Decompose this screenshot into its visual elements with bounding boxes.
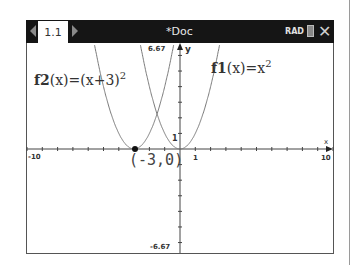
f2-curve[interactable] [95, 45, 174, 149]
graph-canvas[interactable] [0, 0, 355, 265]
f1-expr: =x [246, 60, 266, 76]
f1-name: f1 [211, 60, 227, 76]
f2-label[interactable]: f2(x)=(x+3)2 [34, 70, 126, 88]
y-one-label: 1 [172, 134, 178, 143]
xmin-label: -10 [28, 153, 41, 161]
f1-arg: (x) [227, 60, 246, 76]
x-axis-arrow-icon [326, 146, 333, 152]
xmax-label: 10 [321, 154, 331, 162]
f2-arg: (x) [50, 72, 69, 88]
f2-expr: =(x+3) [69, 72, 120, 88]
f1-label[interactable]: f1(x)=x2 [211, 58, 272, 76]
ymax-label: 6.67 [148, 45, 165, 53]
y-axis-arrow-icon [177, 43, 183, 50]
x-one-label: 1 [193, 154, 198, 162]
f1-exponent: 2 [265, 58, 271, 69]
y-axis-label: y [185, 44, 191, 54]
f2-exponent: 2 [120, 70, 126, 81]
ymin-label: -6.67 [150, 243, 170, 251]
vertex-label: (-3,0) [129, 151, 183, 169]
f2-name: f2 [34, 72, 50, 88]
x-axis-label: x [324, 138, 328, 146]
